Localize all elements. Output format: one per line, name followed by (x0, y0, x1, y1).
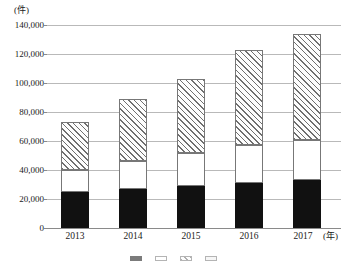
y-tick-label: 120,000 (0, 50, 44, 59)
bar-segment-hatch-2016 (235, 50, 263, 146)
bar-segment-white-2016 (235, 145, 263, 183)
x-axis-baseline (47, 228, 341, 229)
bar-segment-black-2014 (119, 189, 147, 228)
y-tick-label: 40,000 (0, 166, 44, 175)
x-tick-label-2015: 2015 (169, 231, 213, 242)
legend-swatch-hatch-icon (180, 256, 192, 261)
bar-segment-black-2013 (61, 192, 89, 228)
x-axis-tick-labels: 2013 2014 2015 2016 2017 (年) (47, 231, 341, 245)
y-axis-unit-label: (件) (14, 3, 29, 16)
plot-area (47, 25, 341, 228)
y-tick-label: 60,000 (0, 137, 44, 146)
bar-segment-white-2013 (61, 170, 89, 192)
gridline-140000 (47, 25, 341, 26)
y-tick-label: 140,000 (0, 21, 44, 30)
bar-group-2014[interactable] (119, 99, 147, 228)
bar-group-2013[interactable] (61, 122, 89, 228)
x-tick-label-2017: 2017 (281, 231, 325, 242)
y-axis-tick-labels: 140,000 120,000 100,000 80,000 60,000 40… (0, 25, 44, 228)
legend-item[interactable] (130, 256, 145, 261)
x-tick-label-2013: 2013 (53, 231, 97, 242)
x-tick-label-2014: 2014 (111, 231, 155, 242)
bar-segment-white-2014 (119, 161, 147, 189)
legend-swatch-gray-icon (205, 256, 217, 261)
bar-segment-black-2015 (177, 186, 205, 228)
bar-segment-black-2017 (293, 180, 321, 228)
chart-legend (0, 256, 350, 265)
legend-swatch-white-icon (155, 256, 167, 261)
bar-segment-black-2016 (235, 183, 263, 228)
x-axis-unit-label: (年) (323, 231, 338, 242)
x-tick-label-2016: 2016 (227, 231, 271, 242)
y-tick-label: 0 (0, 224, 44, 233)
bar-segment-hatch-2015 (177, 79, 205, 153)
bar-segment-hatch-2013 (61, 122, 89, 170)
legend-item[interactable] (205, 256, 220, 261)
legend-swatch-black-icon (130, 256, 142, 261)
legend-item[interactable] (155, 256, 170, 261)
bar-segment-white-2017 (293, 140, 321, 181)
legend-item[interactable] (180, 256, 195, 261)
bar-group-2016[interactable] (235, 50, 263, 229)
bar-segment-white-2015 (177, 153, 205, 186)
y-tick-label: 80,000 (0, 108, 44, 117)
bar-segment-hatch-2017 (293, 34, 321, 140)
y-tick-label: 20,000 (0, 195, 44, 204)
stacked-bar-chart: (件) 140,000 120,000 100,000 80,000 60,00… (0, 0, 350, 265)
bar-segment-hatch-2014 (119, 99, 147, 161)
y-tick-label: 100,000 (0, 79, 44, 88)
bar-group-2017[interactable] (293, 34, 321, 228)
bar-group-2015[interactable] (177, 79, 205, 229)
